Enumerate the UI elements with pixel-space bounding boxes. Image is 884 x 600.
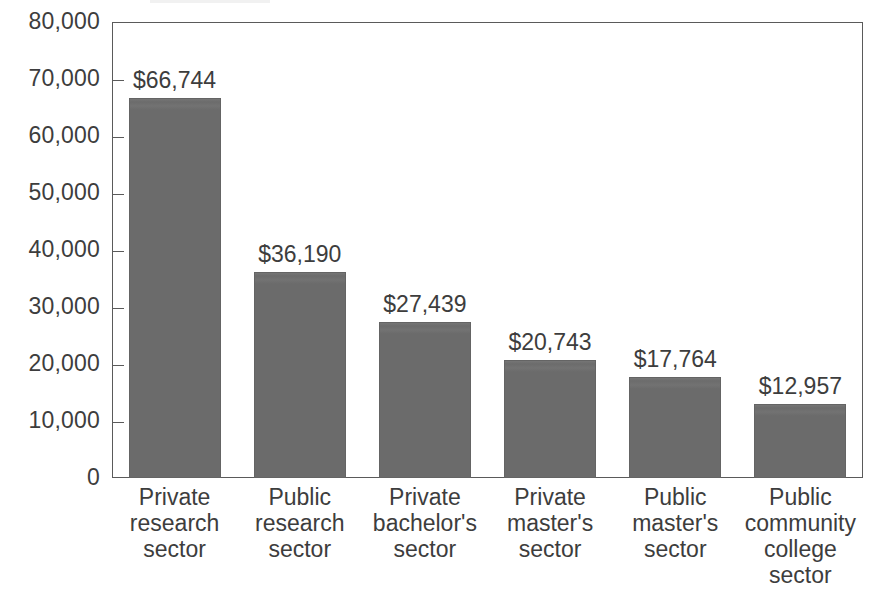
y-axis-tick-label: 60,000 (0, 124, 100, 147)
x-axis-label-line: sector (735, 562, 865, 588)
bar-value-label: $36,190 (236, 243, 364, 266)
y-axis-tick-label: 70,000 (0, 67, 100, 90)
x-axis-label-line: Public (235, 484, 365, 510)
x-axis-label-line: college (735, 536, 865, 562)
x-axis-label-line: Private (360, 484, 490, 510)
bar[interactable] (629, 377, 721, 478)
scan-artifact (150, 0, 270, 3)
bar-value-label: $27,439 (361, 293, 489, 316)
y-axis-tick-label: 80,000 (0, 10, 100, 33)
x-axis-category-label: Privatebachelor'ssector (360, 484, 490, 562)
x-axis-category-label: Privatemaster'ssector (485, 484, 615, 562)
bar[interactable] (129, 98, 221, 478)
x-axis-category-label: Publiccommunitycollegesector (735, 484, 865, 588)
x-axis-label-line: Private (485, 484, 615, 510)
bar-value-label: $20,743 (486, 331, 614, 354)
x-axis-label-line: sector (485, 536, 615, 562)
bar-chart: 010,00020,00030,00040,00050,00060,00070,… (0, 0, 884, 600)
y-axis-tick-label: 40,000 (0, 238, 100, 261)
bar-value-label: $12,957 (736, 375, 864, 398)
bar[interactable] (254, 272, 346, 478)
bar-value-label: $66,744 (111, 69, 239, 92)
x-axis-label-line: Public (735, 484, 865, 510)
bar[interactable] (754, 404, 846, 478)
x-axis-label-line: bachelor's (360, 510, 490, 536)
x-axis-label-line: community (735, 510, 865, 536)
y-axis-tick-label: 0 (0, 466, 100, 489)
x-axis-label-line: sector (610, 536, 740, 562)
bar[interactable] (504, 360, 596, 478)
x-axis-label-line: master's (610, 510, 740, 536)
y-axis-tick-label: 50,000 (0, 181, 100, 204)
y-axis-tick-label: 10,000 (0, 409, 100, 432)
x-axis-label-line: sector (360, 536, 490, 562)
x-axis-category-label: Publicmaster'ssector (610, 484, 740, 562)
bars-layer: $66,744$36,190$27,439$20,743$17,764$12,9… (112, 22, 863, 478)
x-axis-label-line: Private (110, 484, 240, 510)
x-axis-label-line: sector (110, 536, 240, 562)
y-axis-labels: 010,00020,00030,00040,00050,00060,00070,… (0, 0, 100, 600)
x-axis-label-line: sector (235, 536, 365, 562)
x-axis-category-label: Privateresearchsector (110, 484, 240, 562)
x-axis-label-line: research (110, 510, 240, 536)
y-axis-tick-label: 20,000 (0, 352, 100, 375)
x-axis-label-line: Public (610, 484, 740, 510)
x-axis-category-label: Publicresearchsector (235, 484, 365, 562)
x-axis-label-line: research (235, 510, 365, 536)
x-axis-labels: PrivateresearchsectorPublicresearchsecto… (112, 484, 863, 600)
y-axis-tick-label: 30,000 (0, 295, 100, 318)
bar-value-label: $17,764 (611, 348, 739, 371)
bar[interactable] (379, 322, 471, 478)
x-axis-label-line: master's (485, 510, 615, 536)
